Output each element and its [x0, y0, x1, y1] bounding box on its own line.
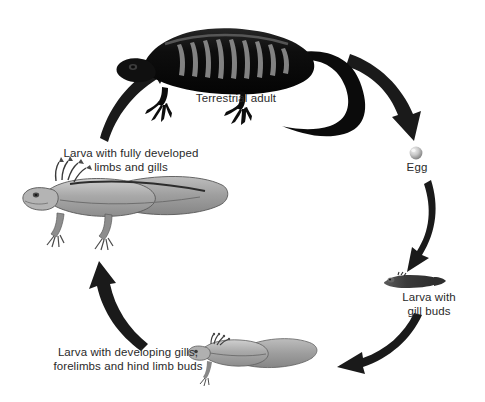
arrow-egg-to-gill-buds-icon	[407, 180, 436, 272]
arrow-developing-to-fully-developed-icon	[89, 261, 148, 351]
arrow-gill-buds-to-developing-icon	[337, 313, 422, 374]
label-larva-with-gill-buds: Larva with gill buds	[392, 291, 466, 318]
terrestrial-adult-illustration	[117, 28, 366, 136]
egg-illustration	[410, 147, 423, 160]
larva-gill-buds-illustration	[384, 272, 446, 288]
label-larva-with-fully-developed-limbs: Larva with fully developed limbs and gil…	[48, 147, 214, 174]
label-terrestrial-adult: Terrestrial adult	[184, 92, 288, 106]
label-larva-with-developing-gills: Larva with developing gills, forelimbs a…	[38, 346, 218, 373]
salamander-life-cycle-diagram: Terrestrial adult Egg Larva with gill bu…	[0, 0, 485, 402]
life-cycle-illustration	[0, 0, 485, 402]
label-egg: Egg	[395, 161, 439, 175]
